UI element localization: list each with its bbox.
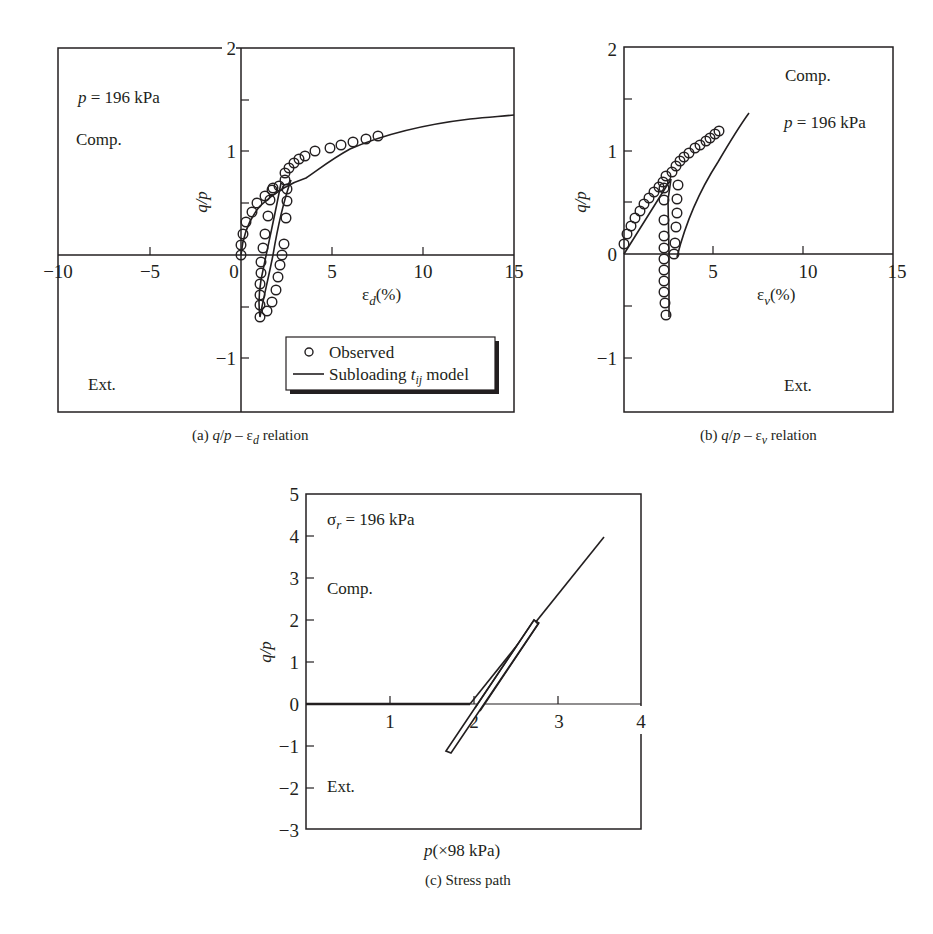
chart-b: 5 10 15 2 1 0 −1 q/p εv(%) Comp. p = 196…: [571, 39, 907, 447]
chart-b-xlabel: εv(%): [757, 285, 795, 308]
chart-c-ytick-neg3: −3: [279, 820, 299, 841]
chart-c-ytick-1: 1: [290, 652, 300, 673]
chart-c-xtick-4: 4: [636, 711, 646, 732]
chart-c-caption: (c) Stress path: [425, 872, 511, 889]
chart-a: −10 −5 0 5 10 15 2 1 −1 q/p εd(%) p = 19…: [43, 38, 523, 447]
chart-c-y-ticks: [306, 536, 314, 788]
chart-c-ytick-neg2: −2: [279, 778, 299, 799]
chart-b-xtick-10: 10: [799, 261, 818, 282]
chart-c-ytick-0: 0: [290, 694, 300, 715]
chart-b-ext-annotation: Ext.: [784, 376, 812, 395]
chart-b-comp-annotation: Comp.: [785, 66, 831, 85]
chart-b-pressure-annotation: p = 196 kPa: [783, 113, 866, 132]
chart-c-cyclic-loop: [446, 620, 538, 753]
chart-b-ytick-1: 1: [608, 141, 618, 162]
chart-b-y-ticks: [624, 99, 632, 358]
chart-a-model-curve-loading: [241, 115, 514, 255]
chart-c: 1 2 3 4 5 4 3 2 1 0 −1 −2 −3 q/p p(×98 k…: [256, 484, 646, 889]
chart-c-compression-path: [470, 537, 604, 704]
chart-a-xtick-10: 10: [414, 261, 433, 282]
chart-a-pressure-annotation: p = 196 kPa: [77, 88, 160, 107]
chart-a-xlabel: εd(%): [362, 285, 401, 308]
chart-a-xtick-0: 0: [229, 261, 239, 282]
chart-b-xtick-15: 15: [888, 261, 907, 282]
chart-c-sigma-annotation: σr = 196 kPa: [327, 510, 415, 532]
chart-a-comp-annotation: Comp.: [76, 130, 122, 149]
chart-b-ytick-0: 0: [608, 244, 618, 265]
chart-b-ylabel: q/p: [571, 191, 590, 213]
legend-model-label: Subloading tij model: [329, 365, 469, 387]
chart-c-ytick-4: 4: [290, 526, 300, 547]
chart-a-legend: Observed Subloading tij model: [286, 337, 499, 394]
legend-observed-label: Observed: [329, 343, 395, 362]
chart-c-ylabel: q/p: [256, 641, 275, 663]
chart-a-xtick-15: 15: [505, 261, 524, 282]
chart-c-ytick-3: 3: [290, 568, 300, 589]
chart-c-ext-annotation: Ext.: [327, 777, 355, 796]
chart-b-ytick-2: 2: [608, 39, 618, 60]
chart-b-x-ticks: [713, 246, 803, 254]
chart-a-ylabel: q/p: [192, 191, 211, 213]
chart-a-xtick-neg10: −10: [43, 261, 73, 282]
chart-a-xtick-neg5: −5: [140, 261, 160, 282]
chart-c-xtick-3: 3: [554, 711, 564, 732]
chart-b-ytick-neg1: −1: [597, 348, 617, 369]
chart-c-comp-annotation: Comp.: [327, 579, 373, 598]
chart-a-ytick-1: 1: [227, 141, 237, 162]
chart-c-ytick-neg1: −1: [279, 736, 299, 757]
chart-a-ytick-2: 2: [227, 38, 237, 59]
chart-c-xtick-1: 1: [385, 711, 395, 732]
chart-c-ytick-5: 5: [290, 484, 300, 505]
chart-c-frame: [306, 494, 641, 829]
chart-c-xlabel: p(×98 kPa): [423, 841, 500, 860]
chart-a-ytick-neg1: −1: [216, 348, 236, 369]
figure-canvas: −10 −5 0 5 10 15 2 1 −1 q/p εd(%) p = 19…: [0, 0, 933, 934]
chart-a-observed-points: [236, 131, 383, 322]
chart-a-xtick-5: 5: [327, 261, 337, 282]
chart-b-frame: [624, 47, 893, 412]
chart-b-caption: (b) q/p – εv relation: [700, 427, 817, 447]
chart-a-caption: (a) q/p – εd relation: [192, 427, 309, 447]
chart-c-ytick-2: 2: [290, 610, 300, 631]
chart-b-xtick-5: 5: [708, 261, 718, 282]
chart-a-ext-annotation: Ext.: [88, 375, 116, 394]
chart-b-observed-points: [619, 126, 724, 320]
